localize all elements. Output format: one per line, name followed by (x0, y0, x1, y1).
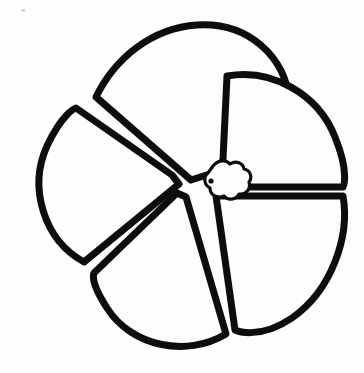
paper-speck (21, 9, 25, 12)
flower-center-dot (208, 178, 213, 183)
drawing-canvas: Black ink outline drawing of a five-peta… (0, 0, 364, 373)
flower-illustration (0, 0, 364, 373)
